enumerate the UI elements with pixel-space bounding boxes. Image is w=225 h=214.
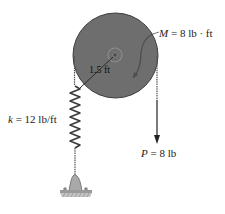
axle-pin: [113, 53, 117, 57]
pulley-disk: [73, 13, 158, 98]
spring-equals: =: [13, 113, 25, 125]
force-label: P = 8 lb: [141, 148, 176, 159]
moment-label: M = 8 lb · ft: [159, 28, 213, 39]
spring-value: 12 lb/ft: [25, 113, 57, 125]
moment-equals: =: [168, 27, 180, 39]
moment-symbol: M: [159, 27, 168, 39]
moment-value: 8 lb · ft: [180, 27, 213, 39]
force-symbol: P: [141, 147, 148, 159]
radius-label: 1.5 ft: [89, 65, 110, 75]
force-value: 8 lb: [159, 147, 176, 159]
spring-constant-label: k = 12 lb/ft: [8, 114, 57, 125]
ground-support-icon: [60, 175, 92, 198]
force-equals: =: [148, 147, 160, 159]
